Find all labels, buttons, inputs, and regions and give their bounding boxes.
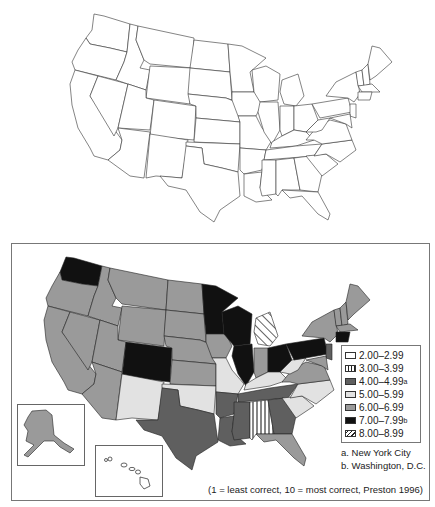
state-nm bbox=[116, 374, 164, 420]
state-fl bbox=[256, 434, 306, 466]
alaska-shape bbox=[18, 405, 84, 465]
legend-item: 5.00–5.99 bbox=[345, 388, 420, 401]
state-ct-ri bbox=[336, 332, 350, 342]
swatch-diagonal-stripes-icon bbox=[345, 430, 356, 437]
swatch-light-grey-icon bbox=[345, 391, 356, 398]
state-me bbox=[346, 284, 370, 320]
note-b: b. Washington, D.C. bbox=[341, 459, 426, 472]
state-mi bbox=[254, 312, 278, 346]
hawaii-inset bbox=[95, 445, 163, 497]
hawaii-shape bbox=[96, 446, 162, 496]
legend-item: 7.00–7.99b bbox=[345, 414, 420, 427]
legend-item: 8.00–8.99 bbox=[345, 427, 420, 440]
outline-us-map bbox=[0, 0, 435, 225]
choropleth-states bbox=[44, 257, 370, 470]
legend-notes: a. New York City b. Washington, D.C. bbox=[341, 446, 426, 472]
legend-item: 4.00–4.99a bbox=[345, 375, 420, 388]
swatch-black-icon bbox=[345, 417, 356, 424]
legend: 2.00–2.99 3.00–3.99 4.00–4.99a 5.00–5.99… bbox=[341, 345, 421, 443]
legend-item: 2.00–2.99 bbox=[345, 349, 420, 362]
alaska-inset bbox=[17, 404, 85, 466]
legend-item: 6.00–6.99 bbox=[345, 401, 420, 414]
state-mt bbox=[108, 268, 168, 310]
state-nj bbox=[326, 344, 332, 360]
state-wy bbox=[118, 306, 166, 346]
swatch-vertical-stripes-icon bbox=[345, 365, 356, 372]
outline-states bbox=[70, 14, 392, 222]
note-a: a. New York City bbox=[341, 446, 426, 459]
state-ny bbox=[302, 310, 338, 342]
swatch-dark-grey-icon bbox=[345, 378, 356, 385]
state-ks bbox=[170, 360, 216, 386]
swatch-white-icon bbox=[345, 352, 356, 359]
state-nd bbox=[166, 280, 204, 314]
figure-caption: (1 = least correct, 10 = most correct, P… bbox=[208, 484, 423, 495]
swatch-mid-grey-icon bbox=[345, 404, 356, 411]
state-ms bbox=[232, 402, 250, 440]
legend-item: 3.00–3.99 bbox=[345, 362, 420, 375]
choropleth-map-frame: 2.00–2.99 3.00–3.99 4.00–4.99a 5.00–5.99… bbox=[11, 243, 430, 501]
